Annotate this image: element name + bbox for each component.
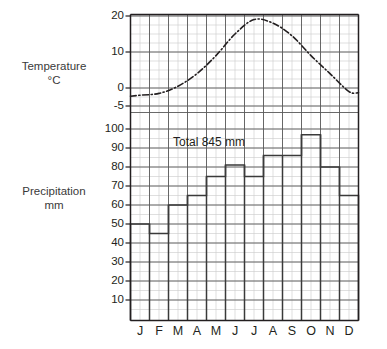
month-label-august: A [263, 325, 283, 338]
temperature-tick-0: 0 [96, 82, 124, 94]
month-label-june: J [225, 325, 245, 338]
month-label-december: D [339, 325, 359, 338]
temperature-axis-label-unit: °C [6, 74, 102, 88]
month-label-may: M [206, 325, 226, 338]
temperature-tick-20: 20 [96, 10, 124, 22]
precipitation-axis-label: Precipitation mm [2, 185, 106, 212]
month-label-october: O [301, 325, 321, 338]
temperature-axis-label-name: Temperature [6, 60, 102, 74]
precipitation-tick-10: 10 [96, 294, 124, 306]
temperature-axis-label: Temperature °C [6, 60, 102, 87]
precipitation-tick-80: 80 [96, 161, 124, 173]
precipitation-tick-40: 40 [96, 237, 124, 249]
precipitation-tick-90: 90 [96, 142, 124, 154]
month-label-july: J [244, 325, 264, 338]
precipitation-tick-50: 50 [96, 218, 124, 230]
total-precipitation-annotation: Total 845 mm [173, 136, 245, 149]
precipitation-axis-label-name: Precipitation [2, 185, 106, 199]
month-label-april: A [187, 325, 207, 338]
month-label-january: J [130, 325, 150, 338]
temperature-tick-10: 10 [96, 46, 124, 58]
precipitation-tick-70: 70 [96, 180, 124, 192]
precipitation-tick-20: 20 [96, 275, 124, 287]
precipitation-tick-60: 60 [96, 199, 124, 211]
temperature-tick--5: -5 [96, 100, 124, 112]
month-label-september: S [282, 325, 302, 338]
precipitation-tick-100: 100 [96, 123, 124, 135]
month-label-february: F [149, 325, 169, 338]
precipitation-tick-30: 30 [96, 256, 124, 268]
precipitation-axis-label-unit: mm [2, 199, 106, 213]
month-label-march: M [168, 325, 188, 338]
month-label-november: N [320, 325, 340, 338]
climograph-figure [0, 0, 387, 349]
